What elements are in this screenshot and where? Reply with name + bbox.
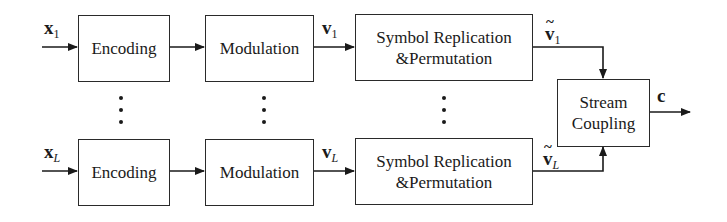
ellipsis-dot xyxy=(442,96,446,100)
modulation-block-L: Modulation xyxy=(205,139,314,206)
ellipsis-dot xyxy=(119,120,123,124)
label-v1-tilde: v1 xyxy=(545,24,561,50)
ellipsis-dot xyxy=(119,108,123,112)
ellipsis-dot xyxy=(442,108,446,112)
ellipsis-dot xyxy=(262,96,266,100)
label-vL-tilde: vL xyxy=(543,149,559,175)
encoding-block-1: Encoding xyxy=(78,15,170,82)
ellipsis-dot xyxy=(262,120,266,124)
label-vL: vL xyxy=(322,142,338,168)
ellipsis-dot xyxy=(262,108,266,112)
stream-coupling-block: Stream Coupling xyxy=(557,79,650,147)
output-label-c: c xyxy=(657,86,665,105)
ellipsis-dot xyxy=(442,120,446,124)
replication-permutation-block-1: Symbol Replication &Permutation xyxy=(355,14,533,81)
modulation-block-1: Modulation xyxy=(205,15,314,82)
input-label-x1: x1 xyxy=(44,18,60,44)
input-label-xL: xL xyxy=(44,142,60,168)
replication-permutation-block-L: Symbol Replication &Permutation xyxy=(355,138,533,205)
ellipsis-dot xyxy=(119,96,123,100)
label-v1: v1 xyxy=(322,18,338,44)
encoding-block-L: Encoding xyxy=(78,139,170,206)
arrow-replication-1-to-coupling xyxy=(532,47,603,78)
